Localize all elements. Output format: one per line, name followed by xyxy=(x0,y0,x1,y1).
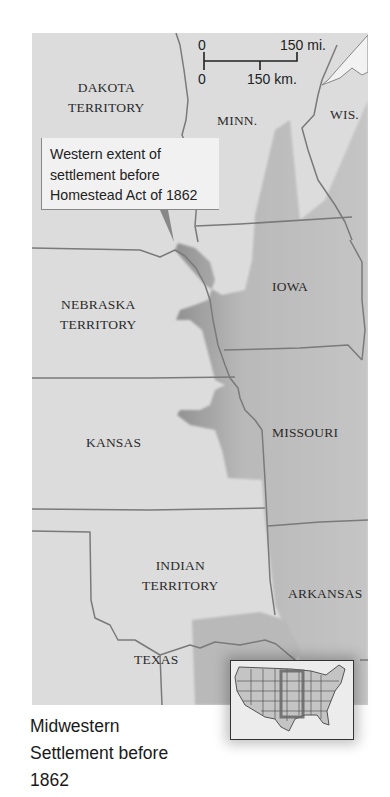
label-minn: MINN. xyxy=(217,111,257,131)
scale-km-label: 150 km. xyxy=(247,71,297,87)
us-locator-inset xyxy=(230,660,354,740)
label-dakota: DAKOTA TERRITORY xyxy=(68,78,145,118)
scale-km-zero: 0 xyxy=(198,71,206,87)
settlement-callout: Western extent of settlement before Home… xyxy=(41,138,219,210)
scale-mi-label: 150 mi. xyxy=(280,37,326,53)
label-nebraska: NEBRASKA TERRITORY xyxy=(60,295,137,335)
map-caption: Midwestern Settlement before 1862 xyxy=(30,713,168,794)
label-texas: TEXAS xyxy=(134,650,179,670)
label-wis: WIS. xyxy=(330,105,359,125)
settlement-map: 0 150 mi. 0 150 km. DAKOTA TERRITORY MIN… xyxy=(32,33,368,705)
us-outline-graphic xyxy=(231,661,353,739)
scale-mi-zero: 0 xyxy=(198,37,206,53)
label-missouri: MISSOURI xyxy=(272,423,338,443)
label-kansas: KANSAS xyxy=(86,433,141,453)
map-graphic xyxy=(32,33,368,705)
label-indian-territory: INDIAN TERRITORY xyxy=(142,556,219,596)
label-iowa: IOWA xyxy=(272,277,308,297)
label-arkansas: ARKANSAS xyxy=(288,584,362,604)
